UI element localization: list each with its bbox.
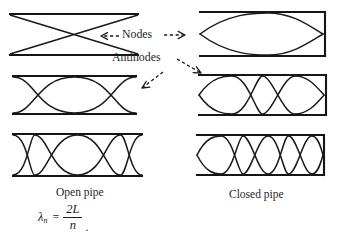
- antinodes-pointer-right-arrowhead: [193, 67, 201, 73]
- closed-pipe-caption: Closed pipe: [229, 188, 284, 201]
- wavelength-formula: λn = 2L n .: [38, 203, 88, 231]
- formula-numerator: 2L: [63, 203, 82, 217]
- formula-equals-sign: =: [52, 210, 59, 225]
- antinodes-pointer-right: [177, 59, 201, 73]
- closed-pipe-row-1-wave-a: [200, 13, 323, 34]
- nodes-label: Nodes: [122, 28, 152, 41]
- formula-fraction: 2L n: [63, 203, 82, 231]
- open-pipe-row-2: [13, 76, 136, 114]
- pipes-diagram: [0, 0, 339, 237]
- closed-pipe-row-3-wave-b: [197, 136, 323, 174]
- antinodes-pointer-left-line: [142, 72, 163, 88]
- closed-pipe-row-3: [197, 135, 324, 175]
- closed-pipe-row-3-wave-a: [197, 136, 323, 174]
- open-pipe-row-2-wave-a: [13, 77, 136, 113]
- open-pipe-row-3: [13, 134, 142, 176]
- antinodes-pointer-left: [142, 72, 163, 88]
- formula-trailing-period: .: [85, 220, 88, 235]
- open-pipe-row-1: [10, 14, 138, 55]
- formula-lambda-subscript: n: [43, 216, 47, 225]
- closed-pipe-row-1-wave-b: [200, 34, 323, 55]
- closed-pipe-row-1: [200, 12, 325, 56]
- nodes-pointer-right: [164, 31, 185, 38]
- open-pipe-row-2-wave-b: [13, 77, 136, 113]
- closed-pipe-row-2-wave-a: [199, 76, 324, 114]
- nodes-pointer-left: [101, 33, 119, 40]
- antinodes-pointer-right-line: [177, 59, 201, 73]
- formula-denominator: n: [67, 218, 79, 232]
- closed-pipe-row-2: [199, 75, 326, 115]
- open-pipe-row-3-wave-b: [13, 135, 142, 175]
- open-pipe-row-3-wave-a: [13, 135, 142, 175]
- antinodes-label: Antinodes: [112, 51, 161, 64]
- open-pipe-caption: Open pipe: [56, 186, 104, 199]
- standing-wave-figure: Nodes Antinodes Open pipe Closed pipe λn…: [0, 0, 339, 237]
- closed-pipe-row-2-wave-b: [199, 76, 324, 114]
